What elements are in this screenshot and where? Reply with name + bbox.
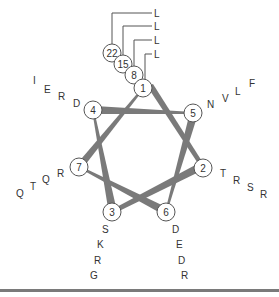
residue-labels-pos1: L L L L: [154, 8, 160, 60]
residue-label: N: [207, 99, 214, 110]
connection-7-1: [76, 88, 144, 169]
residue-labels-pos7: R Q T Q: [16, 168, 64, 199]
num-22: 22: [106, 48, 118, 59]
connection-4-5: [95, 106, 193, 114]
residue-label: D: [172, 224, 179, 235]
num-7: 7: [76, 162, 82, 173]
residue-label: S: [102, 224, 109, 235]
residue-labels-pos4: D R E I: [33, 75, 80, 109]
residue-label: V: [222, 93, 229, 104]
residue-label: K: [97, 239, 104, 250]
num-6: 6: [163, 207, 169, 218]
residue-label: D: [178, 255, 185, 266]
residue-label: Q: [42, 174, 50, 185]
residue-label: R: [58, 91, 65, 102]
residue-label: R: [181, 270, 188, 281]
num-3: 3: [109, 207, 115, 218]
num-8: 8: [131, 70, 137, 81]
residue-label: Q: [16, 188, 24, 199]
residue-label: R: [260, 189, 267, 200]
num-2: 2: [200, 163, 206, 174]
residue-label: T: [30, 181, 36, 192]
residue-label: R: [233, 175, 240, 186]
num-15: 15: [117, 59, 129, 70]
helical-wheel-diagram: 22 15 8 1 2 3 4 5 6 7 L L L L N V L F D …: [0, 0, 279, 297]
connection-5-6: [165, 112, 198, 212]
residue-label: G: [90, 270, 98, 281]
residue-label: R: [57, 168, 64, 179]
residue-labels-pos3: S K R G: [90, 224, 109, 281]
num-1: 1: [140, 83, 146, 94]
residue-label: L: [154, 35, 160, 46]
num-4: 4: [90, 105, 96, 116]
residue-label: L: [235, 86, 241, 97]
residue-label: L: [154, 49, 160, 60]
bottom-divider: [0, 289, 279, 292]
residue-labels-pos2: T R S R: [220, 168, 267, 200]
connection-1-2: [147, 84, 205, 168]
residue-label: R: [94, 255, 101, 266]
residue-label: S: [247, 182, 254, 193]
residue-label: D: [73, 98, 80, 109]
residue-labels-pos5: N V L F: [207, 78, 255, 110]
residue-label: E: [44, 84, 51, 95]
residue-label: F: [249, 78, 255, 89]
residue-labels-pos6: D E D R: [172, 224, 188, 281]
num-5: 5: [190, 108, 196, 119]
residue-label: I: [33, 75, 36, 86]
residue-label: L: [154, 8, 160, 19]
residue-label: L: [154, 21, 160, 32]
residue-label: E: [176, 239, 183, 250]
residue-label: T: [220, 168, 226, 179]
